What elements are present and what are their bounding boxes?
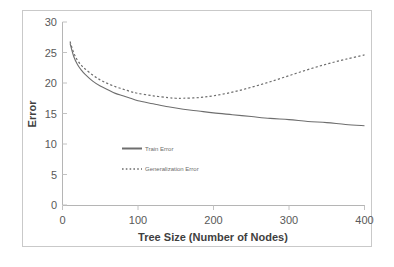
y-tick-label-20: 20 <box>45 77 57 89</box>
y-tick-label-5: 5 <box>51 169 57 181</box>
legend: Train Error Generalization Error <box>122 146 199 173</box>
x-axis-tickmarks <box>63 206 365 211</box>
x-tick-label-300: 300 <box>280 214 298 226</box>
y-tick-label-10: 10 <box>45 138 57 150</box>
y-tick-label-15: 15 <box>45 108 57 120</box>
chart-canvas: 30 25 20 15 10 5 0 0 100 200 300 400 Tre… <box>0 0 394 267</box>
legend-label-generalization-error: Generalization Error <box>145 166 199 172</box>
series-line-train-error <box>70 43 364 125</box>
y-tick-label-25: 25 <box>45 47 57 59</box>
x-tick-label-0: 0 <box>59 214 65 226</box>
x-tick-label-400: 400 <box>355 214 373 226</box>
x-tick-label-200: 200 <box>204 214 222 226</box>
y-axis-title: Error <box>26 100 38 128</box>
x-tick-label-100: 100 <box>129 214 147 226</box>
y-tick-label-0: 0 <box>51 199 57 211</box>
series-line-generalization-error <box>70 42 364 99</box>
x-axis-title: Tree Size (Number of Nodes) <box>138 231 288 243</box>
y-tick-label-30: 30 <box>45 16 57 28</box>
y-axis-tickmarks <box>63 22 68 205</box>
legend-label-train-error: Train Error <box>145 146 173 152</box>
